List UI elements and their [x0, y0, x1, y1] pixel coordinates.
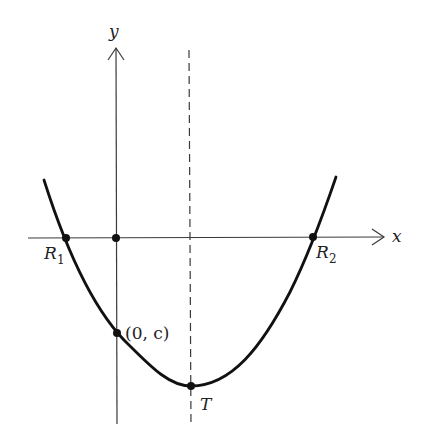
r2-subscript: 2	[329, 252, 337, 266]
x-axis: x	[28, 226, 402, 246]
r1-letter: R	[43, 243, 57, 263]
y-axis: y	[108, 21, 124, 424]
x-axis-line	[28, 237, 384, 238]
y-intercept-label: (0, c)	[125, 323, 169, 343]
y-axis-label: y	[108, 21, 119, 41]
parabola-diagram: x y R 1 R 2 (0, c) T	[0, 0, 423, 441]
root-r1-label: R 1	[43, 243, 65, 267]
root-r2-point	[309, 233, 317, 241]
y-intercept-point	[113, 329, 121, 337]
x-axis-label: x	[392, 226, 402, 246]
vertex-label: T	[200, 394, 213, 414]
r1-subscript: 1	[57, 253, 65, 267]
origin-point	[112, 234, 120, 242]
root-r2-label: R 2	[315, 242, 337, 266]
vertex-point	[187, 382, 195, 390]
root-r1-point	[62, 234, 70, 242]
r2-letter: R	[315, 242, 329, 262]
